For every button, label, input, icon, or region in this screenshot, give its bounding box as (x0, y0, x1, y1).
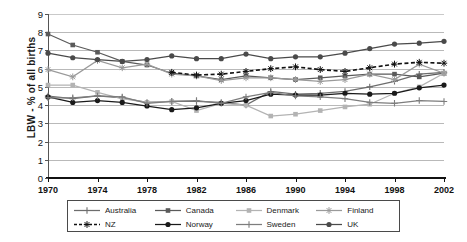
x-tick-label: 1998 (384, 185, 404, 195)
legend-swatch-plus-icon (72, 205, 102, 216)
legend-item-australia[interactable]: Australia (72, 205, 153, 216)
data-point-square (318, 108, 323, 113)
data-point-plus (342, 96, 348, 102)
legend-label: Australia (105, 206, 136, 215)
data-point-square (165, 208, 170, 213)
x-tick-mark (246, 178, 247, 182)
data-point-plus (84, 207, 90, 213)
legend-label: NZ (105, 220, 116, 229)
x-tick-mark (296, 178, 297, 182)
data-point-square (70, 43, 75, 48)
x-tick-label: 1978 (137, 185, 157, 195)
legend-swatch-star-icon (72, 219, 102, 230)
legend-swatch-square-icon (234, 205, 264, 216)
x-tick-mark (395, 178, 396, 182)
data-point-star (45, 66, 51, 73)
legend-label: Finland (347, 206, 373, 215)
data-point-star (342, 68, 348, 75)
data-point-circle (243, 51, 248, 56)
legend-item-denmark[interactable]: Denmark (234, 205, 315, 216)
data-point-square (95, 50, 100, 55)
data-point-circle (441, 82, 446, 87)
x-tick-mark (48, 178, 49, 182)
data-point-plus (441, 98, 447, 104)
data-point-circle (392, 41, 397, 46)
data-point-star (441, 70, 447, 77)
data-point-star (193, 72, 199, 79)
y-tick-label: 0 (29, 173, 43, 184)
series-line-uk (48, 41, 444, 61)
data-point-star (218, 77, 224, 84)
x-tick-label: 1994 (335, 185, 355, 195)
data-point-plus (193, 97, 199, 103)
data-point-square (268, 114, 273, 119)
legend-label: UK (347, 220, 358, 229)
data-point-circle (70, 55, 75, 60)
data-point-plus (391, 100, 397, 106)
data-point-star (243, 68, 249, 75)
data-point-circle (194, 105, 199, 110)
data-point-circle (144, 57, 149, 62)
data-point-star (268, 65, 274, 72)
chart-figure: LBW - % of all births 0123456789 1970197… (0, 0, 467, 242)
data-point-circle (120, 100, 125, 105)
data-point-star (70, 73, 76, 80)
data-point-star (416, 59, 422, 66)
data-point-square (46, 32, 51, 37)
legend-item-norway[interactable]: Norway (153, 219, 234, 230)
x-tick-label: 1990 (285, 185, 305, 195)
data-point-star (441, 60, 447, 67)
data-point-plus (416, 97, 422, 103)
data-point-circle (293, 54, 298, 59)
legend-item-uk[interactable]: UK (314, 219, 395, 230)
data-point-star (84, 221, 90, 228)
data-point-circle (120, 59, 125, 64)
data-point-plus (367, 84, 373, 90)
legend-item-sweden[interactable]: Sweden (234, 219, 315, 230)
data-point-circle (367, 46, 372, 51)
data-point-circle (268, 56, 273, 61)
data-point-star (268, 74, 274, 81)
y-tick-label: 1 (29, 154, 43, 165)
data-point-circle (45, 51, 50, 56)
legend-swatch-star-icon (314, 205, 344, 216)
plot-area: 0123456789 19701974197819821986199019941… (48, 14, 444, 178)
legend-label: Norway (186, 220, 213, 229)
data-point-circle (169, 107, 174, 112)
data-point-square (70, 83, 75, 88)
legend-item-nz[interactable]: NZ (72, 219, 153, 230)
data-point-star (317, 66, 323, 73)
legend-label: Denmark (267, 206, 299, 215)
chart-legend: AustraliaCanadaDenmarkFinlandNZNorwaySwe… (67, 200, 400, 232)
data-point-star (342, 76, 348, 83)
x-tick-label: 1982 (186, 185, 206, 195)
data-point-square (244, 103, 249, 108)
data-point-star (292, 76, 298, 83)
data-point-circle (169, 53, 174, 58)
y-tick-label: 7 (29, 45, 43, 56)
legend-item-finland[interactable]: Finland (314, 205, 395, 216)
data-point-circle (392, 91, 397, 96)
legend-swatch-square-icon (153, 205, 183, 216)
x-tick-mark (98, 178, 99, 182)
data-point-circle (417, 41, 422, 46)
data-point-circle (165, 221, 170, 226)
data-point-circle (342, 51, 347, 56)
x-tick-mark (197, 178, 198, 182)
y-tick-label: 9 (29, 9, 43, 20)
legend-item-canada[interactable]: Canada (153, 205, 234, 216)
x-tick-label: 1986 (236, 185, 256, 195)
legend-swatch-circle-icon (153, 219, 183, 230)
data-point-circle (194, 56, 199, 61)
x-tick-label: 1970 (38, 185, 58, 195)
data-point-star (367, 71, 373, 78)
data-point-circle (417, 85, 422, 90)
data-point-square (392, 72, 397, 77)
legend-swatch-circle-icon (314, 219, 344, 230)
series-line-nz (172, 62, 444, 75)
x-tick-label: 1974 (87, 185, 107, 195)
legend-label: Sweden (267, 220, 296, 229)
data-point-circle (318, 54, 323, 59)
data-point-circle (367, 92, 372, 97)
data-point-star (218, 71, 224, 78)
